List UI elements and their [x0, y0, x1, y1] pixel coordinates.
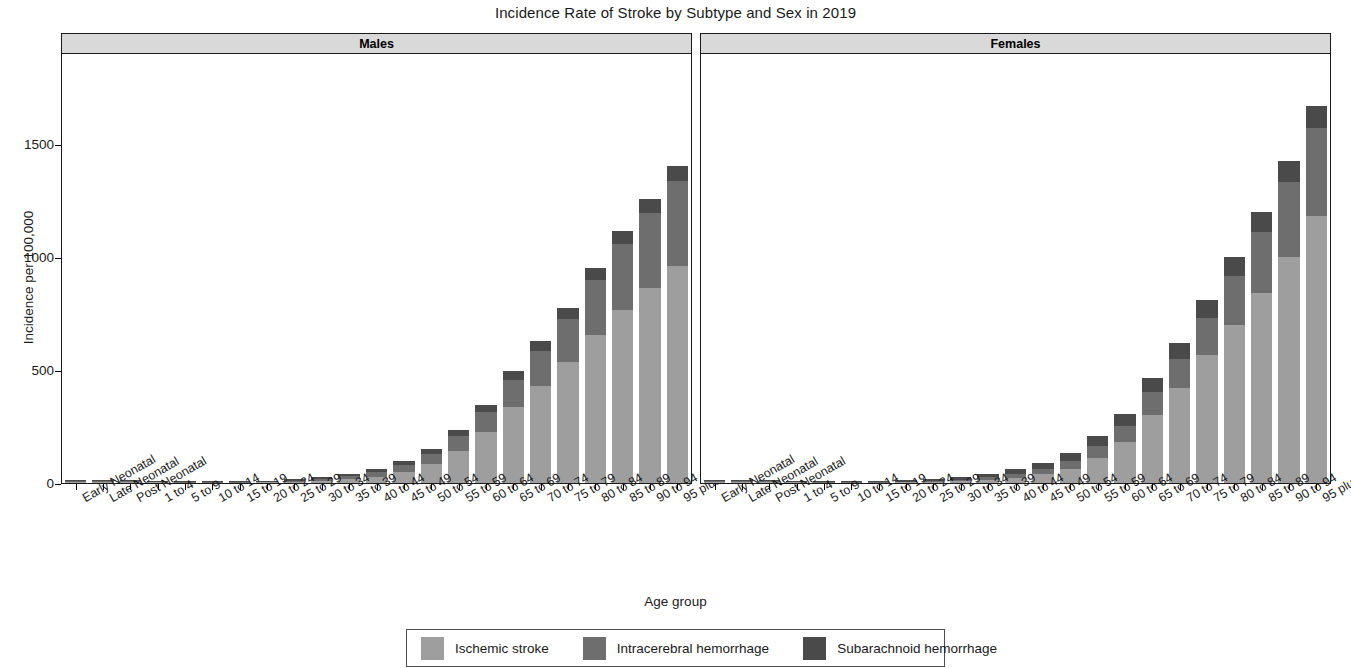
stacked-bar[interactable] — [1142, 378, 1163, 483]
bar-segment-subarachnoid[interactable] — [1278, 161, 1299, 182]
bar-segment-ischemic[interactable] — [1251, 293, 1272, 483]
bar-segment-intracerebral[interactable] — [393, 465, 414, 472]
x-tick-label: 75 to 79 — [572, 493, 579, 505]
bar-segment-intracerebral[interactable] — [503, 380, 524, 407]
x-tick-mark — [879, 484, 880, 490]
bar-segment-ischemic[interactable] — [612, 310, 633, 483]
bar-segment-subarachnoid[interactable] — [557, 308, 578, 319]
chart-title: Incidence Rate of Stroke by Subtype and … — [0, 4, 1351, 21]
bar-segment-intracerebral[interactable] — [1251, 232, 1272, 293]
stacked-bar[interactable] — [1251, 212, 1272, 483]
bar-segment-ischemic[interactable] — [1306, 216, 1327, 483]
stacked-bar[interactable] — [612, 231, 633, 483]
x-tick-label: 20 to 24 — [910, 493, 917, 505]
x-tick-label: 60 to 64 — [1129, 493, 1136, 505]
stacked-bar[interactable] — [1224, 257, 1245, 483]
stacked-bar[interactable] — [1114, 414, 1135, 483]
bar-segment-intracerebral[interactable] — [1060, 461, 1081, 469]
bar-segment-ischemic[interactable] — [667, 266, 688, 483]
bar-segment-subarachnoid[interactable] — [1251, 212, 1272, 232]
bar-segment-ischemic[interactable] — [530, 386, 551, 483]
stacked-bar[interactable] — [585, 268, 606, 483]
bar-segment-intracerebral[interactable] — [1087, 446, 1108, 458]
bar-segment-ischemic[interactable] — [1224, 325, 1245, 483]
bar-segment-intracerebral[interactable] — [1278, 182, 1299, 257]
legend-item[interactable]: Subarachnoid hemorrhage — [803, 637, 997, 660]
bar-segment-ischemic[interactable] — [503, 407, 524, 483]
stacked-bar[interactable] — [65, 480, 86, 483]
bar-segment-subarachnoid[interactable] — [1060, 453, 1081, 461]
x-tick-mark — [1152, 484, 1153, 490]
bar-segment-subarachnoid[interactable] — [612, 231, 633, 244]
x-tick-label: 55 to 59 — [463, 493, 470, 505]
x-tick-label: 55 to 59 — [1102, 493, 1109, 505]
bar-segment-intracerebral[interactable] — [530, 351, 551, 386]
x-tick-label: 1 to 4 — [162, 493, 169, 505]
bar-segment-subarachnoid[interactable] — [475, 405, 496, 412]
stacked-bar[interactable] — [557, 308, 578, 483]
bar-segment-subarachnoid[interactable] — [1087, 436, 1108, 446]
stacked-bar[interactable] — [530, 341, 551, 483]
bar-segment-subarachnoid[interactable] — [1142, 378, 1163, 392]
bar-segment-intracerebral[interactable] — [1224, 276, 1245, 325]
bar-segment-subarachnoid[interactable] — [639, 199, 660, 213]
bar-segment-subarachnoid[interactable] — [503, 371, 524, 380]
stacked-bar[interactable] — [475, 405, 496, 484]
bar-segment-intracerebral[interactable] — [1169, 359, 1190, 388]
bar-segment-ischemic[interactable] — [585, 335, 606, 483]
bar-segment-intracerebral[interactable] — [557, 319, 578, 362]
bar-segment-intracerebral[interactable] — [475, 412, 496, 432]
bar-segment-intracerebral[interactable] — [585, 280, 606, 334]
bar-segment-ischemic[interactable] — [1142, 415, 1163, 483]
x-tick-mark — [185, 484, 186, 490]
y-tick-label: 1500 — [0, 137, 54, 152]
stacked-bar[interactable] — [503, 371, 524, 483]
stacked-bar[interactable] — [1278, 161, 1299, 483]
stacked-bar[interactable] — [1169, 343, 1190, 483]
bar-segment-ischemic[interactable] — [557, 362, 578, 483]
x-tick-mark — [1234, 484, 1235, 490]
bar-segment-intracerebral[interactable] — [1306, 128, 1327, 216]
bar-segment-intracerebral[interactable] — [448, 436, 469, 450]
bar-segment-intracerebral[interactable] — [1114, 426, 1135, 442]
legend-label: Subarachnoid hemorrhage — [837, 641, 997, 656]
legend-item[interactable]: Intracerebral hemorrhage — [583, 637, 769, 660]
bar-segment-subarachnoid[interactable] — [1196, 300, 1217, 318]
stacked-bar[interactable] — [1306, 106, 1327, 483]
x-tick-label: 90 to 94 — [654, 493, 661, 505]
stacked-bar[interactable] — [1196, 300, 1217, 483]
bar-segment-subarachnoid[interactable] — [667, 166, 688, 181]
stacked-bar[interactable] — [667, 166, 688, 483]
bar-segment-intracerebral[interactable] — [639, 213, 660, 289]
stacked-bar[interactable] — [704, 480, 725, 483]
legend-swatch — [421, 637, 444, 660]
x-tick-label: 80 to 84 — [1238, 493, 1245, 505]
facet-strip-label: Females — [700, 33, 1331, 54]
x-tick-mark — [158, 484, 159, 490]
x-tick-label: 95 plus — [1320, 493, 1327, 505]
bar-segment-subarachnoid[interactable] — [1114, 414, 1135, 426]
bar-segment-intracerebral[interactable] — [421, 454, 442, 464]
x-tick-label: 35 to 39 — [992, 493, 999, 505]
bar-segment-ischemic[interactable] — [639, 288, 660, 483]
bar-segment-intracerebral[interactable] — [1142, 392, 1163, 415]
x-tick-label: 85 to 89 — [627, 493, 634, 505]
bar-segment-intracerebral[interactable] — [1196, 318, 1217, 355]
bar-segment-intracerebral[interactable] — [667, 181, 688, 266]
legend-item[interactable]: Ischemic stroke — [421, 637, 549, 660]
bar-segment-subarachnoid[interactable] — [1306, 106, 1327, 128]
bar-segment-subarachnoid[interactable] — [585, 268, 606, 280]
bar-segment-ischemic[interactable] — [65, 482, 86, 483]
bar-segment-ischemic[interactable] — [1196, 355, 1217, 483]
bar-segment-ischemic[interactable] — [704, 482, 725, 483]
bar-segment-intracerebral[interactable] — [612, 244, 633, 310]
x-tick-mark — [1070, 484, 1071, 490]
bar-segment-ischemic[interactable] — [1278, 257, 1299, 483]
stacked-bar[interactable] — [639, 199, 660, 483]
bar-segment-subarachnoid[interactable] — [1224, 257, 1245, 276]
x-tick-mark — [377, 484, 378, 490]
bar-segment-subarachnoid[interactable] — [1169, 343, 1190, 359]
bar-segment-subarachnoid[interactable] — [530, 341, 551, 351]
x-tick-label: 30 to 34 — [326, 493, 333, 505]
bar-segment-ischemic[interactable] — [1169, 388, 1190, 483]
